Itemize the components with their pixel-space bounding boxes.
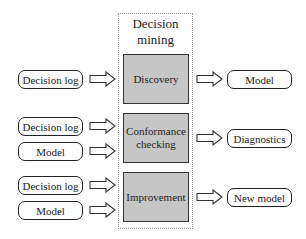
output-diagnostics: Diagnostics <box>227 129 292 148</box>
output-model: Model <box>227 70 292 89</box>
output-new-model: New model <box>227 188 292 207</box>
arrow-right-icon <box>89 71 116 87</box>
process-conformance-checking: Conformance checking <box>123 113 189 163</box>
arrow-right-icon <box>89 143 116 159</box>
arrow-right-icon <box>89 118 116 134</box>
arrow-right-icon <box>196 130 223 146</box>
input-decision-log-conformance: Decision log <box>18 117 83 136</box>
arrow-right-icon <box>196 71 223 87</box>
input-decision-log-discovery: Decision log <box>18 70 83 89</box>
arrow-right-icon <box>196 189 223 205</box>
input-model-conformance: Model <box>18 142 83 161</box>
decision-mining-title: Decision mining <box>118 16 193 48</box>
arrow-right-icon <box>89 177 116 193</box>
input-model-improvement: Model <box>18 201 83 220</box>
input-decision-log-improvement: Decision log <box>18 176 83 195</box>
process-discovery: Discovery <box>123 54 189 104</box>
process-improvement: Improvement <box>123 172 189 222</box>
arrow-right-icon <box>89 202 116 218</box>
